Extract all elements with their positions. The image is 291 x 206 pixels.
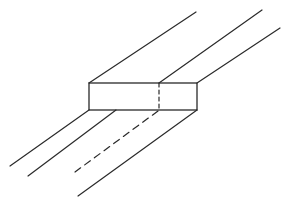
upper-line-1 xyxy=(89,12,196,83)
upper-line-2 xyxy=(159,10,262,83)
upper-parallel-lines xyxy=(89,10,280,83)
lower-line-4 xyxy=(78,110,197,196)
lower-line-1 xyxy=(10,110,89,166)
upper-line-3 xyxy=(197,28,280,83)
lower-parallel-lines xyxy=(10,110,197,196)
lower-line-2 xyxy=(28,110,116,176)
isometric-block-diagram xyxy=(0,0,291,206)
lower-line-3 xyxy=(75,111,158,172)
diagram-canvas xyxy=(0,0,291,206)
block-rectangle xyxy=(89,83,197,110)
